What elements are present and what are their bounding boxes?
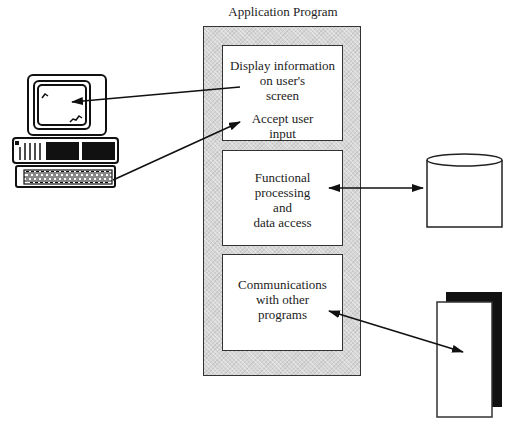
diagram-graphics — [0, 0, 513, 424]
input-arrow — [113, 122, 240, 180]
other-system-icon — [437, 292, 502, 417]
database-icon — [427, 154, 502, 227]
personal-computer-icon — [13, 75, 118, 187]
